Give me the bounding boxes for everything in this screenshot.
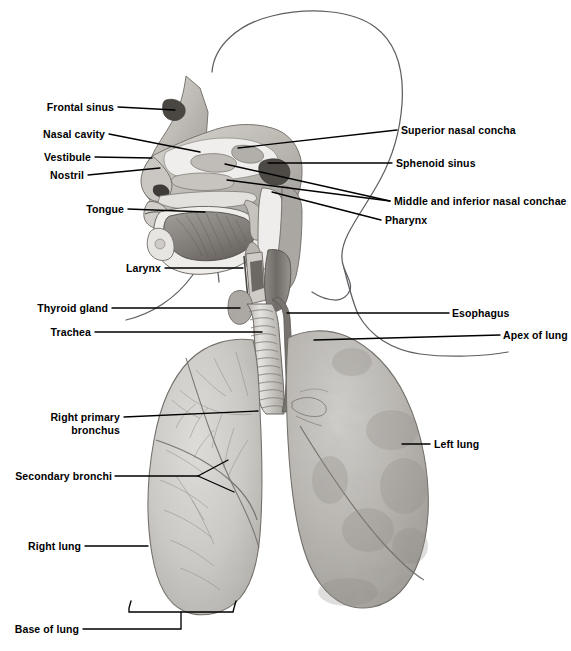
label-pharynx: Pharynx — [385, 214, 427, 226]
label-right-primary-bronchus-line2: bronchus — [71, 424, 120, 436]
label-base-of-lung: Base of lung — [0, 623, 79, 635]
respiratory-system-figure: Frontal sinus Nasal cavity Vestibule Nos… — [0, 0, 571, 651]
label-apex-of-lung: Apex of lung — [503, 329, 568, 341]
label-superior-nasal-concha: Superior nasal concha — [401, 124, 516, 136]
label-larynx: Larynx — [0, 262, 161, 274]
sagittal-head-section — [141, 76, 302, 324]
label-thyroid-gland: Thyroid gland — [0, 302, 108, 314]
label-left-lung: Left lung — [434, 438, 479, 450]
label-vestibule: Vestibule — [0, 151, 91, 163]
leader-vestibule — [95, 157, 152, 158]
label-tongue: Tongue — [0, 203, 124, 215]
label-sphenoid-sinus: Sphenoid sinus — [396, 157, 476, 169]
label-right-primary-bronchus-line1: Right primary — [50, 411, 120, 423]
left-lung — [287, 331, 429, 608]
label-nasal-cavity: Nasal cavity — [0, 128, 105, 140]
label-frontal-sinus: Frontal sinus — [0, 101, 114, 113]
label-middle-and-inferior-nasal-conchae: Middle and inferior nasal conchae — [394, 195, 567, 207]
leader-base-of-lung-stem — [83, 612, 181, 629]
label-secondary-bronchi: Secondary bronchi — [0, 470, 112, 482]
label-esophagus: Esophagus — [452, 307, 510, 319]
label-trachea: Trachea — [0, 326, 91, 338]
right-lung — [148, 339, 262, 614]
label-right-lung: Right lung — [0, 540, 81, 552]
label-nostril: Nostril — [0, 169, 84, 181]
label-right-primary-bronchus: Right primary bronchus — [0, 411, 120, 436]
